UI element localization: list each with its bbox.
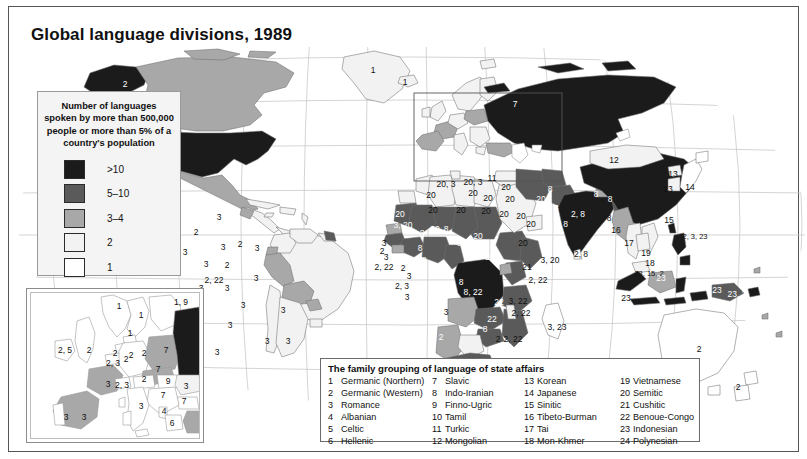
legend-label: 3–4 bbox=[107, 213, 124, 224]
family-number: 17 bbox=[524, 424, 537, 436]
family-table-row: 17Tai bbox=[524, 424, 620, 436]
country-ussr bbox=[484, 75, 676, 151]
inset-language-label: 2 bbox=[142, 375, 147, 384]
country-greece bbox=[476, 147, 486, 155]
map-language-label: 11 bbox=[488, 174, 497, 183]
map-language-label: 3 bbox=[286, 337, 291, 346]
inset-language-label: 7 bbox=[199, 347, 200, 356]
family-table-row: 3Romance bbox=[328, 400, 432, 412]
inset-language-label: 2, 3 bbox=[115, 381, 129, 390]
map-language-label: 2 bbox=[736, 383, 741, 392]
family-table-column: 13Korean14Japanese15Sinitic16Tibeto-Burm… bbox=[524, 376, 620, 447]
family-table-row: 10Tamil bbox=[432, 412, 524, 424]
family-table-row: 11Turkic bbox=[432, 424, 524, 436]
lesser-antilles bbox=[302, 213, 308, 225]
family-table-column: 7Slavic8Indo-Iranian9Finno-Ugric10Tamil1… bbox=[432, 376, 524, 447]
legend-swatch bbox=[64, 209, 85, 228]
inset-language-label: 7 bbox=[182, 397, 187, 406]
map-language-label: 3 bbox=[221, 243, 226, 252]
map-language-label: 1 bbox=[403, 78, 408, 87]
map-language-label: 2, 8 bbox=[574, 250, 588, 259]
map-language-label: 8 bbox=[444, 225, 449, 234]
map-language-label: 1 bbox=[371, 66, 376, 75]
family-number: 9 bbox=[432, 400, 445, 412]
country-jamaica bbox=[264, 213, 274, 217]
map-language-label: 8 bbox=[446, 280, 451, 289]
family-number: 8 bbox=[432, 388, 445, 400]
inset-language-label: 2 bbox=[113, 349, 118, 358]
map-language-label: 20, 3 bbox=[437, 180, 456, 189]
map-language-label: 3, 20 bbox=[394, 221, 413, 230]
map-language-label: 2, 22 bbox=[529, 276, 548, 285]
family-table-row: 14Japanese bbox=[524, 388, 620, 400]
country-ireland bbox=[422, 107, 430, 117]
family-name: Germanic (Northern) bbox=[341, 376, 432, 388]
map-language-label: 8 bbox=[548, 185, 553, 194]
map-language-label: 22 bbox=[487, 315, 496, 324]
family-table-row: 2Germanic (Western) bbox=[328, 388, 432, 400]
country-western-sahara bbox=[398, 191, 416, 203]
family-number: 20 bbox=[620, 388, 633, 400]
map-language-label: 18 bbox=[645, 259, 654, 268]
legend-row: 2 bbox=[64, 232, 174, 254]
family-number: 4 bbox=[328, 412, 341, 424]
map-language-label: 2 bbox=[401, 264, 406, 273]
map-language-label: 3 bbox=[407, 272, 412, 281]
family-name: Slavic bbox=[445, 376, 524, 388]
inset-language-label: 7 bbox=[156, 365, 161, 374]
family-name: Tamil bbox=[445, 412, 524, 424]
map-language-label: 23 bbox=[621, 294, 630, 303]
map-language-label: 13 bbox=[668, 170, 677, 179]
inset-language-label: 3 bbox=[139, 402, 144, 411]
family-number: 24 bbox=[620, 436, 633, 448]
country-hispaniola bbox=[280, 207, 296, 215]
family-number: 2 bbox=[328, 388, 341, 400]
family-table-row: 22Benoue-Congo bbox=[620, 412, 706, 424]
family-table-row: 5Celtic bbox=[328, 424, 432, 436]
map-language-label: 2, 22 bbox=[205, 276, 224, 285]
family-table-row: 1Germanic (Northern) bbox=[328, 376, 432, 388]
map-language-label: 3 bbox=[228, 321, 233, 330]
legend-panel: Number of languages spoken by more than … bbox=[37, 91, 181, 276]
inset-language-label: 4 bbox=[162, 407, 167, 416]
map-language-label: 20 bbox=[536, 195, 545, 204]
family-number: 16 bbox=[524, 412, 537, 424]
map-language-label: 8 bbox=[608, 195, 613, 204]
family-table-row: 18Mon-Khmer bbox=[524, 436, 620, 448]
map-language-label: 23 bbox=[712, 286, 721, 295]
map-language-label: 20 bbox=[518, 239, 527, 248]
inset-language-label: 1 bbox=[139, 311, 144, 320]
map-language-label: 20 bbox=[468, 189, 477, 198]
country-svalbard bbox=[480, 59, 496, 69]
family-name: Germanic (Western) bbox=[341, 388, 432, 400]
map-language-label: 8 bbox=[459, 278, 464, 287]
family-table-row: 23Indonesian bbox=[620, 424, 706, 436]
map-language-label: 20 bbox=[473, 232, 482, 241]
map-language-label: 13 bbox=[663, 185, 672, 194]
map-language-label: 3 bbox=[265, 337, 270, 346]
inset-language-label: 2 bbox=[87, 346, 92, 355]
family-number: 12 bbox=[432, 436, 445, 448]
inset-language-label: 7 bbox=[161, 391, 166, 400]
family-name: Tai bbox=[537, 424, 620, 436]
inset-language-label: 7 bbox=[164, 346, 169, 355]
country-indonesia-isles bbox=[664, 291, 708, 305]
family-table-column: 1Germanic (Northern)2Germanic (Western)3… bbox=[328, 376, 432, 447]
inset-language-label: 1 bbox=[128, 329, 133, 338]
map-language-label: 3 bbox=[254, 274, 259, 283]
family-name: Mon-Khmer bbox=[537, 436, 620, 448]
inset-language-label: 2 bbox=[129, 351, 134, 360]
map-language-label: 3 bbox=[215, 348, 220, 357]
map-language-label: 8 bbox=[418, 244, 423, 253]
map-language-label: 2 bbox=[439, 333, 444, 342]
family-number: 15 bbox=[524, 400, 537, 412]
family-table-row: 6Hellenic bbox=[328, 436, 432, 448]
map-language-label: 2, 22 bbox=[504, 335, 523, 344]
legend-swatch bbox=[64, 184, 85, 203]
europe-inset-map[interactable]: 111, 912, 52222, 3227772932, 33773461133 bbox=[26, 288, 204, 443]
family-name: Benoue-Congo bbox=[633, 412, 706, 424]
map-language-label: 7 bbox=[513, 100, 518, 109]
map-language-label: 8 bbox=[422, 256, 427, 265]
family-number: 21 bbox=[620, 400, 633, 412]
inset-language-label: 2, 5 bbox=[58, 346, 72, 355]
